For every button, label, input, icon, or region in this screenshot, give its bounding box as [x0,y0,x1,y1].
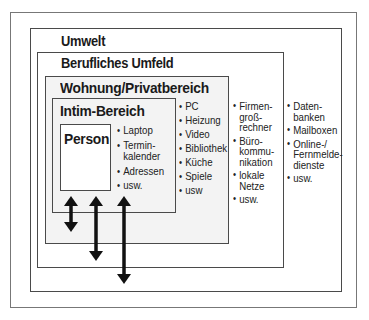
arrows-layer [0,0,369,320]
double-arrow-icon [64,196,78,232]
double-arrow-icon [89,196,103,261]
double-arrow-icon [117,196,131,284]
